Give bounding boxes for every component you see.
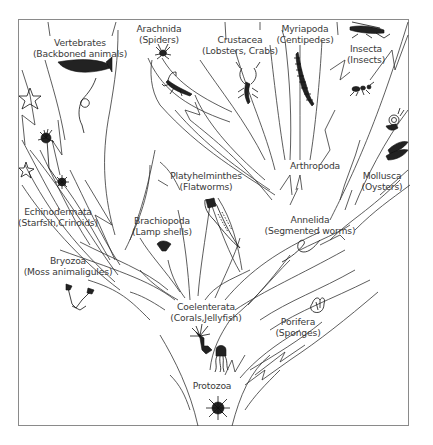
node-name: Arthropoda — [290, 160, 340, 171]
node-common-name: (Moss animaligules) — [24, 266, 113, 277]
node-porifera: Porifera (Sponges) — [275, 316, 320, 338]
coral-icon — [190, 324, 212, 354]
node-mollusca: Mollusca (Oysters) — [361, 170, 402, 192]
node-myriapoda: Myriapoda (Centipedes) — [276, 23, 333, 45]
node-name: Annelida — [265, 214, 356, 225]
grasshopper-icon — [350, 22, 390, 38]
node-name: Brachiopoda — [132, 215, 192, 226]
node-name: Crustacea — [202, 34, 278, 45]
node-common-name: (Lamp shells) — [132, 226, 192, 237]
bryozoan-icon — [66, 284, 94, 310]
sponge-icon — [311, 298, 325, 313]
node-common-name: (Starfsih,Crinoids) — [18, 217, 98, 228]
node-arachnida: Arachnida (Spiders) — [136, 23, 181, 45]
node-name: Vertebrates — [33, 37, 127, 48]
node-arthropoda: Arthropoda — [290, 160, 340, 171]
starfish-icon — [19, 88, 41, 109]
ant-icon — [350, 82, 374, 96]
node-name: Platyhelminthes — [170, 170, 242, 181]
node-name: Protozoa — [193, 380, 232, 391]
node-annelida: Annelida (Segmented worms) — [265, 214, 356, 236]
node-crustacea: Crustacea (Lobsters, Crabs) — [202, 34, 278, 56]
node-common-name: (Flatworms) — [170, 181, 242, 192]
node-name: Arachnida — [136, 23, 181, 34]
node-name: Echinodermata — [18, 206, 98, 217]
node-name: Insecta — [347, 43, 385, 54]
node-name: Myriapoda — [276, 23, 333, 34]
starfish-icon-2 — [19, 162, 34, 178]
node-coelenterata: Coelenterata (Corals,Jellyfish) — [170, 301, 241, 323]
node-common-name: (Insects) — [347, 54, 385, 65]
node-common-name: (Centipedes) — [276, 34, 333, 45]
tree-of-life-diagram: Vertebrates (Backboned animals) Arachnid… — [0, 0, 433, 445]
arachnida-band — [148, 58, 232, 122]
lobster-icon — [236, 62, 260, 104]
node-common-name: (Corals,Jellyfish) — [170, 312, 241, 323]
node-name: Bryozoa — [24, 255, 113, 266]
node-common-name: (Segmented worms) — [265, 225, 356, 236]
node-name: Coelenterata — [170, 301, 241, 312]
node-name: Mollusca — [361, 170, 402, 181]
node-insecta: Insecta (Insects) — [347, 43, 385, 65]
node-protozoa: Protozoa — [193, 380, 232, 391]
centipede-icon — [294, 52, 314, 106]
lamp-shell-icon — [157, 241, 171, 251]
jellyfish-icon — [215, 346, 228, 373]
node-common-name: (Lobsters, Crabs) — [202, 45, 278, 56]
scorpion-icon — [162, 72, 192, 96]
node-platyhelminthes: Platyhelminthes (Flatworms) — [170, 170, 242, 192]
spider-icon — [155, 44, 171, 59]
snake-icon — [79, 78, 96, 133]
fish-icon — [58, 57, 112, 72]
node-common-name: (Backboned animals) — [33, 48, 127, 59]
node-common-name: (Sponges) — [275, 327, 320, 338]
node-common-name: (Oysters) — [361, 181, 402, 192]
amoeba-icon — [206, 396, 230, 420]
node-bryozoa: Bryozoa (Moss animaligules) — [24, 255, 113, 277]
oyster-icon — [386, 141, 408, 160]
node-vertebrates: Vertebrates (Backboned animals) — [33, 37, 127, 59]
node-common-name: (Spiders) — [136, 34, 181, 45]
node-name: Porifera — [275, 316, 320, 327]
node-brachiopoda: Brachiopoda (Lamp shells) — [132, 215, 192, 237]
sea-urchin-icon — [55, 175, 69, 189]
node-echinodermata: Echinodermata (Starfsih,Crinoids) — [18, 206, 98, 228]
